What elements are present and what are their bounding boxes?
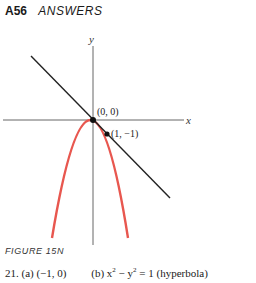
answer-number: 21. — [5, 267, 19, 279]
point-1-neg1 — [104, 131, 109, 136]
answer-line-21: 21. (a) (−1, 0) (b) x2 − y2 = 1 (hyperbo… — [5, 266, 208, 279]
point-origin-label: (0, 0) — [97, 106, 119, 118]
figure-15n: x y (0, 0) (1, −1) — [0, 0, 256, 283]
x-axis-label: x — [185, 114, 191, 126]
answer-part-b-prefix: (b) x — [91, 267, 112, 279]
figure-caption: FIGURE 15N — [5, 246, 64, 256]
tangent-line — [31, 56, 170, 198]
answer-part-b-mid: − y — [116, 267, 133, 279]
point-1-neg1-label: (1, −1) — [111, 128, 138, 140]
answer-part-a: (a) (−1, 0) — [22, 267, 67, 279]
point-origin — [90, 117, 96, 123]
y-axis-label: y — [88, 33, 94, 45]
answer-part-b-suffix: = 1 (hyperbola) — [137, 267, 208, 279]
